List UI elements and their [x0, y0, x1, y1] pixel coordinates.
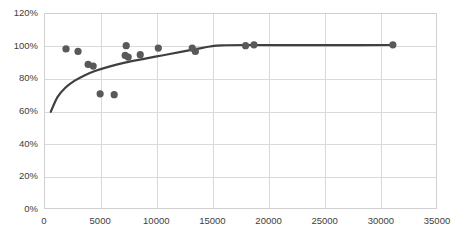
scatter-chart: 0%20%40%60%80%100%120% 05000100001500020…: [0, 0, 451, 239]
x-axis-labels: 05000100001500020000250003000035000: [0, 0, 451, 239]
x-tick-label: 5000: [75, 216, 125, 226]
x-tick-label: 20000: [244, 216, 294, 226]
x-tick-label: 10000: [131, 216, 181, 226]
x-tick-label: 30000: [356, 216, 406, 226]
x-tick-label: 0: [19, 216, 69, 226]
x-tick-label: 25000: [300, 216, 350, 226]
x-tick-label: 35000: [412, 216, 451, 226]
x-tick-label: 15000: [187, 216, 237, 226]
